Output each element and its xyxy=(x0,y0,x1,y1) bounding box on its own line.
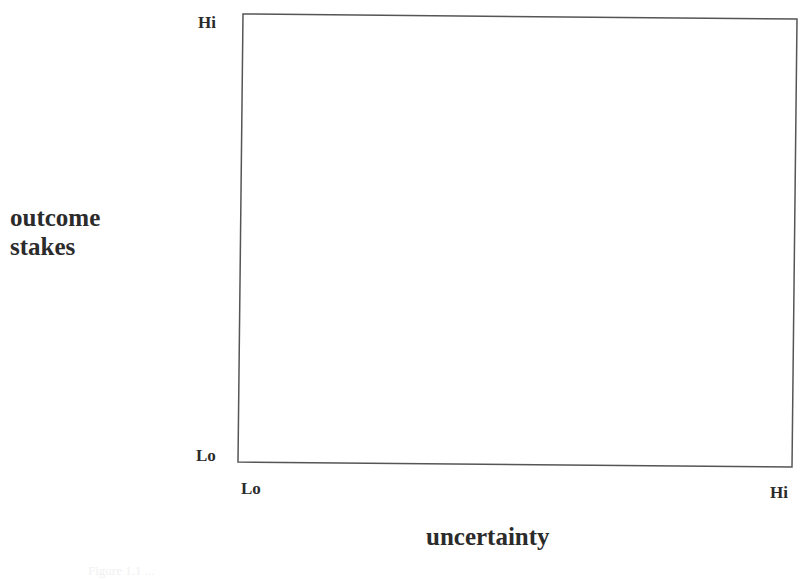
y-axis-title-line2: stakes xyxy=(10,232,100,261)
faint-caption: Figure 1.1 ... xyxy=(88,563,154,579)
y-axis-low-label: Lo xyxy=(196,446,216,466)
y-axis-title: outcome stakes xyxy=(10,203,100,261)
y-axis-high-label: Hi xyxy=(198,13,216,33)
x-axis-high-label: Hi xyxy=(770,483,788,503)
y-axis-title-line1: outcome xyxy=(10,203,100,232)
x-axis-title: uncertainty xyxy=(426,522,550,551)
x-axis-low-label: Lo xyxy=(241,479,261,499)
